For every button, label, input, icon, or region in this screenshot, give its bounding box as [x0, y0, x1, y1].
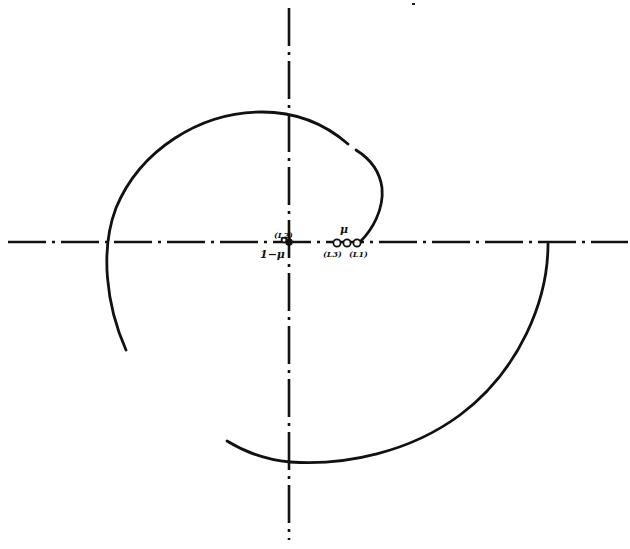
label-l3: (L3)	[323, 249, 342, 259]
label-mu: μ	[340, 223, 348, 236]
label-one-minus-mu: 1−μ	[260, 248, 285, 261]
inner-spiral-arc-segment-2	[107, 112, 348, 350]
label-l1: (L1)	[349, 249, 368, 259]
lagrange-point-l1-marker	[353, 239, 360, 246]
outer-spiral-arc	[227, 244, 548, 463]
spiral-trajectory-diagram: (L2) 1−μ μ (L3) (L1)	[0, 0, 630, 549]
inner-spiral-arc-segment-1	[356, 150, 382, 242]
label-l2: (L2)	[274, 230, 293, 240]
scan-speck	[412, 3, 415, 5]
mass-mu-point	[343, 239, 350, 246]
lagrange-point-l3-marker	[333, 239, 340, 246]
